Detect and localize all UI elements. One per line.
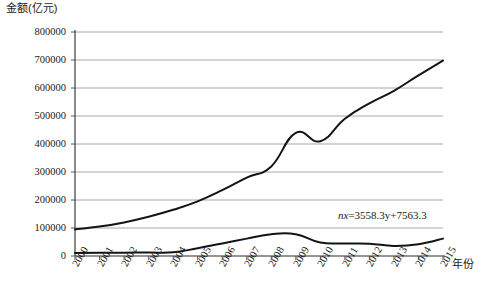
equation-rhs: 3558.3y+7563.3 <box>355 209 427 221</box>
y-axis-tick-label: 200000 <box>12 194 66 205</box>
y-axis-tick-label: 300000 <box>12 166 66 177</box>
y-axis-tick-label: 0 <box>12 250 66 261</box>
regression-equation-annotation: nx=3558.3y+7563.3 <box>338 209 427 222</box>
gridlines <box>75 32 443 228</box>
y-axis-tick-label: 600000 <box>12 82 66 93</box>
chart-container: 金额(亿元) 年份 010000020000030000040000050000… <box>0 0 485 298</box>
y-axis-tick-label: 700000 <box>12 54 66 65</box>
y-axis-title: 金额(亿元) <box>6 2 57 15</box>
y-axis-ticks <box>71 32 75 256</box>
y-axis-tick-label: 100000 <box>12 222 66 233</box>
y-axis-tick-label: 500000 <box>12 110 66 121</box>
data-series <box>75 61 443 253</box>
equation-lhs: nx <box>338 209 348 221</box>
axis-lines <box>75 30 445 256</box>
y-axis-tick-label: 800000 <box>12 26 66 37</box>
plot-area <box>0 0 485 298</box>
y-axis-tick-label: 400000 <box>12 138 66 149</box>
x-axis-title: 年份 <box>452 258 474 271</box>
